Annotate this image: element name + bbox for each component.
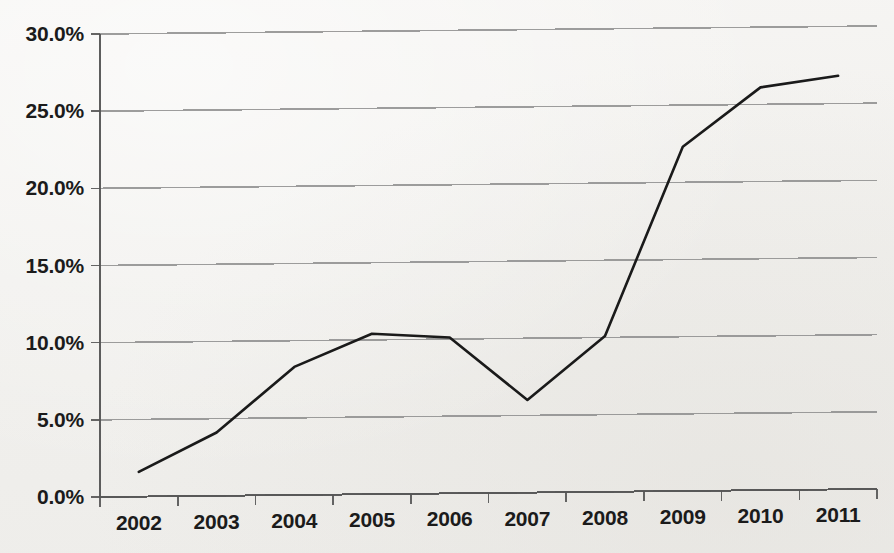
data-series-line — [139, 76, 838, 472]
gridlines-group — [100, 26, 877, 497]
chart-plot-area — [0, 0, 894, 553]
gridline-y — [100, 103, 877, 111]
y-tick-label: 20.0% — [0, 176, 84, 200]
gridline-y — [100, 180, 877, 188]
x-tick-label: 2003 — [194, 510, 240, 534]
x-tick-label: 2004 — [271, 509, 317, 533]
y-tick-label: 5.0% — [0, 408, 84, 432]
y-tick-label: 10.0% — [0, 331, 84, 355]
data-series-group — [139, 76, 838, 472]
x-tick-label: 2010 — [737, 504, 783, 528]
x-tick-label: 2011 — [816, 503, 861, 527]
x-tick-label: 2006 — [427, 507, 473, 531]
x-tick-label: 2005 — [349, 508, 395, 532]
y-tick-label: 0.0% — [0, 485, 84, 509]
x-tick-label: 2008 — [582, 506, 628, 530]
x-tick-label: 2002 — [116, 511, 162, 535]
x-tick-label: 2009 — [660, 505, 706, 529]
gridline-y — [100, 26, 877, 34]
y-tick-label: 25.0% — [0, 99, 84, 123]
axis-group — [100, 34, 877, 497]
y-tick-label: 30.0% — [0, 22, 84, 46]
y-axis-ticks — [91, 34, 100, 497]
line-chart-figure: 0.0%5.0%10.0%15.0%20.0%25.0%30.0% 200220… — [0, 0, 894, 553]
x-tick-label: 2007 — [504, 507, 550, 531]
gridline-y — [100, 335, 877, 343]
gridline-y — [100, 412, 877, 420]
gridline-y — [100, 258, 877, 266]
y-tick-label: 15.0% — [0, 254, 84, 278]
